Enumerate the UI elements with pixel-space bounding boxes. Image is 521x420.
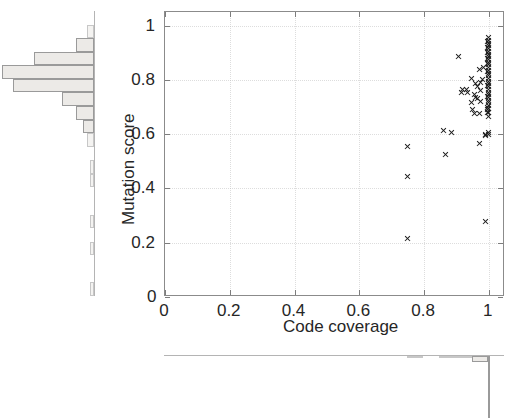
y-tick-label: 0.2: [131, 233, 155, 250]
gridline-vertical: [359, 12, 361, 295]
y-marginal-bar: [90, 242, 94, 256]
y-marginal-bar: [13, 79, 94, 93]
y-tickmark: [165, 297, 170, 298]
gridline-horizontal: [165, 26, 503, 28]
x-marginal-bar: [455, 356, 471, 358]
y-marginal-bar: [62, 92, 94, 106]
scatter-point: [476, 140, 483, 147]
gridline-vertical: [295, 12, 297, 295]
y-tickmark: [165, 80, 170, 81]
scatter-point: [404, 173, 411, 180]
y-tickmark: [165, 26, 170, 27]
x-axis-title: Code coverage: [283, 318, 398, 335]
scatter-point: [474, 83, 481, 90]
y-marginal-histogram: [0, 11, 96, 296]
scatter-point: [477, 98, 484, 105]
x-marginal-histogram: [164, 355, 504, 420]
scatter-point: [476, 66, 483, 73]
y-axis-origin-label: 0: [147, 288, 156, 305]
y-tickmark: [498, 243, 503, 244]
y-marginal-bar: [87, 133, 94, 147]
y-tickmark: [165, 243, 170, 244]
x-marginal-bar: [472, 356, 488, 362]
y-marginal-bar: [90, 160, 94, 174]
gridline-vertical: [424, 12, 426, 295]
x-tickmark: [359, 290, 360, 295]
scatter-point: [474, 95, 481, 102]
x-tickmark: [230, 12, 231, 17]
scatter-point: [469, 106, 476, 113]
x-tickmark: [424, 12, 425, 17]
scatter-point: [471, 110, 478, 117]
y-marginal-bar: [76, 106, 94, 120]
x-tickmark: [424, 290, 425, 295]
scatter-point: [404, 235, 411, 242]
y-tick-label: 0.4: [131, 179, 155, 196]
scatter-point: [440, 127, 447, 134]
x-tickmark: [359, 12, 360, 17]
y-marginal-bar: [34, 52, 94, 66]
gridline-horizontal: [165, 134, 503, 136]
x-tickmark: [295, 12, 296, 17]
y-tick-label: 1: [146, 16, 155, 33]
x-tickmark: [165, 290, 166, 295]
gridline-horizontal: [165, 243, 503, 245]
scatter-point: [464, 89, 471, 96]
scatter-point: [458, 89, 465, 96]
x-tickmark: [489, 12, 490, 17]
x-tick-label: 0.2: [217, 302, 241, 319]
scatter-point: [463, 86, 470, 93]
y-tick-label: 0.8: [131, 70, 155, 87]
gridline-vertical: [230, 12, 232, 295]
figure-scatter-with-marginals: Mutation score 0.20.40.60.81 00.20.40.60…: [0, 0, 521, 420]
scatter-point: [404, 143, 411, 150]
gridline-horizontal: [165, 80, 503, 82]
scatter-point: [468, 99, 475, 106]
y-tickmark: [165, 188, 170, 189]
scatter-point: [471, 91, 478, 98]
scatter-plot-area: [165, 12, 503, 295]
x-tickmark: [230, 290, 231, 295]
x-marginal-bar: [439, 356, 455, 358]
scatter-point: [477, 87, 484, 94]
x-tickmark: [295, 290, 296, 295]
x-tickmark: [165, 12, 166, 17]
y-tickmark: [498, 188, 503, 189]
scatter-point: [472, 94, 479, 101]
y-marginal-axis-line: [94, 11, 95, 296]
y-marginal-bar: [90, 174, 94, 188]
gridline-vertical: [489, 12, 491, 295]
scatter-point: [476, 110, 483, 117]
y-marginal-bar: [87, 25, 94, 39]
y-tickmark: [498, 26, 503, 27]
scatter-point: [455, 53, 462, 60]
y-tickmark: [498, 80, 503, 81]
scatter-point: [480, 64, 487, 71]
x-tick-label: 0: [159, 302, 168, 319]
y-marginal-bar: [83, 120, 94, 134]
gridline-horizontal: [165, 188, 503, 190]
y-marginal-bar: [90, 282, 94, 296]
y-tickmark: [165, 134, 170, 135]
x-tickmark: [489, 290, 490, 295]
y-marginal-bar: [76, 38, 94, 52]
scatter-point: [442, 151, 449, 158]
y-marginal-bar: [2, 65, 94, 79]
y-tickmark: [498, 297, 503, 298]
x-tick-label: 1: [483, 302, 492, 319]
y-marginal-bar: [90, 215, 94, 229]
x-tick-label: 0.8: [411, 302, 435, 319]
y-tick-label: 0.6: [131, 125, 155, 142]
scatter-point: [459, 86, 466, 93]
x-marginal-bar: [407, 356, 423, 358]
y-tickmark: [498, 134, 503, 135]
x-marginal-bar: [488, 356, 490, 418]
scatter-plot-panel: [164, 11, 504, 296]
